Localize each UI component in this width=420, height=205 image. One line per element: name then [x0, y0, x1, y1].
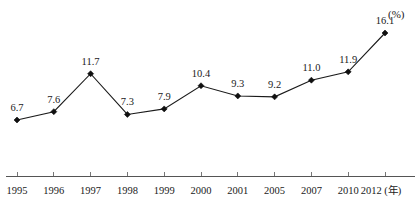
x-axis-tick-label: 2000: [191, 185, 212, 196]
value-labels: 6.77.611.77.37.910.49.39.211.011.916.1: [10, 15, 394, 113]
x-axis-tick-label: 1999: [154, 185, 175, 196]
x-axis-tick-label: 1998: [117, 185, 138, 196]
x-axis-tick-marks: [17, 172, 385, 177]
chart-canvas: 6.77.611.77.37.910.49.39.211.011.916.1 1…: [0, 0, 420, 205]
data-point-label: 9.2: [268, 79, 281, 90]
data-point-label: 10.4: [192, 68, 211, 79]
data-point-marker: [161, 106, 167, 112]
x-axis-tick-label: 2007: [301, 185, 322, 196]
x-axis-tick-label: 1995: [7, 185, 28, 196]
x-axis-tick-label: 2010: [338, 185, 359, 196]
x-axis-tick-label: 2001: [227, 185, 248, 196]
data-point-label: 6.7: [10, 102, 23, 113]
line-chart: (%) 6.77.611.77.37.910.49.39.211.011.916…: [0, 0, 420, 205]
data-point-label: 7.3: [121, 96, 134, 107]
data-point-marker: [14, 117, 20, 123]
data-point-label: 11.9: [339, 54, 357, 65]
data-point-label: 7.6: [47, 94, 60, 105]
data-point-marker: [272, 94, 278, 100]
x-axis-tick-label: 1996: [43, 185, 64, 196]
data-point-marker: [198, 83, 204, 89]
data-point-label: 11.7: [82, 56, 100, 67]
x-axis-tick-label: 1997: [80, 185, 101, 196]
data-point-marker: [235, 93, 241, 99]
data-point-label: 7.9: [158, 91, 171, 102]
x-axis-tick-label: 2012 (年): [361, 184, 402, 197]
x-axis-tick-label: 2005: [264, 185, 285, 196]
data-point-label: 11.0: [302, 62, 320, 73]
data-point-marker: [308, 77, 314, 83]
data-point-label: 9.3: [231, 78, 244, 89]
x-axis-tick-labels: 1995199619971998199920002001200520072010…: [7, 184, 402, 197]
data-point-label: 16.1: [376, 15, 394, 26]
